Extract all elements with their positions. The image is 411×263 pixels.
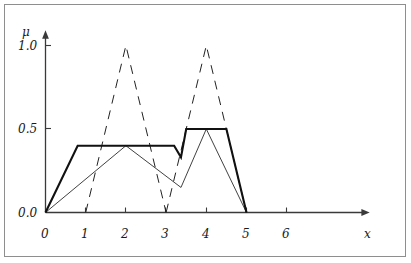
membership-triangle-1-path [86, 46, 166, 213]
figure-root: 1.0 0.5 0.0 0 1 2 3 4 5 6 μ x [0, 0, 411, 263]
clipped-output-thin-path [46, 129, 247, 213]
x-tick-marks [86, 208, 287, 213]
x-axis-title: x [364, 227, 371, 241]
x-tick-label-0: 0 [41, 227, 49, 241]
y-axis-title: μ [22, 25, 30, 39]
x-tick-label-1: 1 [81, 227, 89, 241]
y-tick-marks [46, 46, 52, 129]
x-tick-label-3: 3 [161, 227, 169, 241]
x-tick-label-5: 5 [242, 227, 250, 241]
x-tick-label-4: 4 [201, 227, 210, 241]
x-tick-label-2: 2 [120, 227, 129, 241]
x-tick-label-6: 6 [282, 227, 290, 241]
y-tick-label-0.5: 0.5 [18, 122, 37, 136]
y-tick-label-1.0: 1.0 [18, 39, 37, 53]
fuzzy-membership-plot: 1.0 0.5 0.0 0 1 2 3 4 5 6 μ x [0, 0, 411, 263]
y-tick-label-0.0: 0.0 [18, 206, 37, 220]
axis-group [46, 38, 363, 213]
aggregated-output-thick-path [46, 129, 247, 213]
